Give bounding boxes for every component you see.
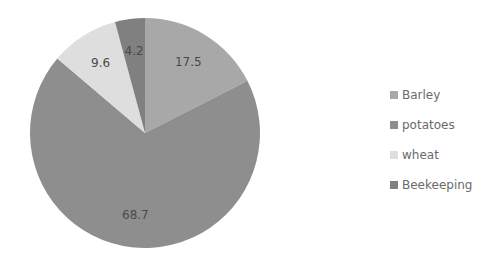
legend-item-potatoes: potatoes xyxy=(390,110,472,140)
data-label-potatoes: 68.7 xyxy=(122,208,149,222)
legend-swatch-beekeeping xyxy=(390,181,398,189)
legend: Barley potatoes wheat Beekeeping xyxy=(390,80,472,200)
legend-item-barley: Barley xyxy=(390,80,472,110)
legend-label-beekeeping: Beekeeping xyxy=(402,178,472,192)
data-label-wheat: 9.6 xyxy=(91,56,110,70)
legend-item-beekeeping: Beekeeping xyxy=(390,170,472,200)
data-label-barley: 17.5 xyxy=(175,55,202,69)
legend-item-wheat: wheat xyxy=(390,140,472,170)
legend-swatch-barley xyxy=(390,91,398,99)
data-label-beekeeping: 4.2 xyxy=(125,44,144,58)
legend-swatch-potatoes xyxy=(390,121,398,129)
legend-label-barley: Barley xyxy=(402,88,440,102)
legend-label-potatoes: potatoes xyxy=(402,118,455,132)
legend-swatch-wheat xyxy=(390,151,398,159)
legend-label-wheat: wheat xyxy=(402,148,439,162)
